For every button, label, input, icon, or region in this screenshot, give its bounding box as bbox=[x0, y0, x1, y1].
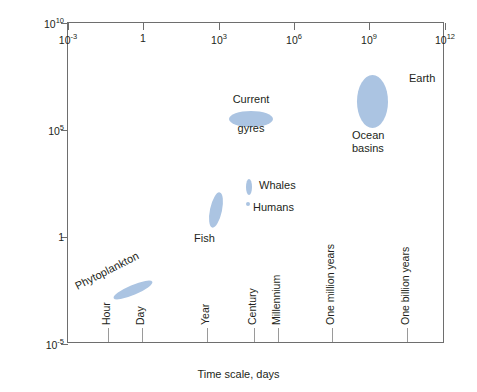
data-blob-label-current-gyres: Currentgyres bbox=[227, 93, 275, 135]
data-blob-humans bbox=[246, 202, 250, 206]
label-line: gyres bbox=[227, 122, 275, 135]
plot-area: 10-5 1 105 1010 10-3 1 103 106 bbox=[67, 22, 444, 343]
data-blob-label-humans: Humans bbox=[253, 201, 294, 214]
data-blob-ocean-basins bbox=[357, 75, 388, 128]
data-blob-layer: PhytoplanktonFishHumansWhalesCurrentgyre… bbox=[68, 23, 443, 342]
data-blob-label-earth: Earth bbox=[409, 72, 435, 85]
data-blob-label-ocean-basins: Oceanbasins bbox=[352, 129, 384, 155]
y-tick-label: 10-5 bbox=[46, 337, 64, 351]
data-blob-label-fish: Fish bbox=[194, 232, 215, 245]
x-tick-mark bbox=[445, 23, 446, 30]
y-tick-label: 1010 bbox=[44, 16, 64, 30]
label-line: basins bbox=[352, 142, 384, 155]
data-blob-fish bbox=[206, 191, 225, 229]
x-axis-title: Time scale, days bbox=[0, 368, 477, 380]
data-blob-whales bbox=[246, 179, 252, 195]
y-tick-label: 1 bbox=[58, 231, 64, 243]
figure-scales-of-ocean-processes: Size scale, meters 10-5 1 105 1010 10-3 … bbox=[0, 0, 477, 392]
y-tick-label: 105 bbox=[48, 123, 64, 137]
label-line: Current bbox=[227, 93, 275, 106]
data-blob-label-whales: Whales bbox=[259, 179, 296, 192]
data-blob-phytoplankton bbox=[112, 277, 155, 303]
label-line: Ocean bbox=[352, 129, 384, 142]
